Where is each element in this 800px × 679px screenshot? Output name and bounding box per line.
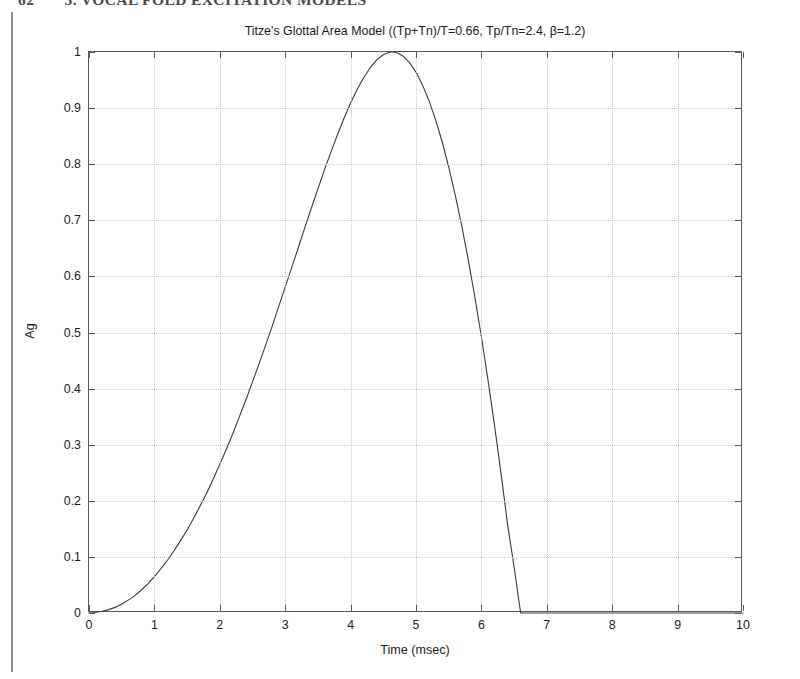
x-axis-tick — [481, 605, 482, 611]
gridline-horizontal — [89, 276, 741, 277]
gridline-horizontal — [89, 164, 741, 165]
y-axis-title: Ag — [23, 323, 37, 338]
gridline-horizontal — [89, 108, 741, 109]
chart-title: Titze's Glottal Area Model ((Tp+Tn)/T=0.… — [88, 24, 742, 38]
y-axis-tick-label: 1 — [74, 45, 81, 59]
x-axis-tick — [220, 52, 221, 58]
x-axis-tick — [481, 52, 482, 58]
x-axis-tick — [416, 52, 417, 58]
x-axis-tick-label: 9 — [674, 618, 681, 632]
gridline-horizontal — [89, 389, 741, 390]
x-axis-tick — [285, 52, 286, 58]
gridline-vertical — [285, 52, 286, 611]
y-axis-tick-label: 0.9 — [64, 101, 81, 115]
x-axis-tick — [612, 605, 613, 611]
x-axis-tick — [743, 605, 744, 611]
gridline-vertical — [481, 52, 482, 611]
gridline-horizontal — [89, 501, 741, 502]
x-axis-tick — [89, 605, 90, 611]
plot-axes: 00.10.20.30.40.50.60.70.80.9101234567891… — [88, 51, 742, 612]
y-axis-tick — [735, 613, 741, 614]
y-axis-tick — [735, 220, 741, 221]
y-axis-tick — [735, 557, 741, 558]
x-axis-tick-label: 0 — [86, 618, 93, 632]
y-axis-tick — [89, 501, 95, 502]
x-axis-tick — [547, 52, 548, 58]
y-axis-tick — [735, 108, 741, 109]
y-axis-tick — [89, 613, 95, 614]
y-axis-tick — [735, 333, 741, 334]
y-axis-tick-label: 0.1 — [64, 550, 81, 564]
gridline-horizontal — [89, 220, 741, 221]
figure-glottal-area-plot: Titze's Glottal Area Model ((Tp+Tn)/T=0.… — [0, 0, 800, 679]
y-axis-tick — [735, 445, 741, 446]
y-axis-tick — [89, 276, 95, 277]
y-axis-tick — [735, 276, 741, 277]
gridline-vertical — [220, 52, 221, 611]
y-axis-tick — [735, 501, 741, 502]
x-axis-tick-label: 8 — [609, 618, 616, 632]
x-axis-tick — [351, 52, 352, 58]
x-axis-title: Time (msec) — [88, 643, 742, 657]
y-axis-tick-label: 0.4 — [64, 382, 81, 396]
y-axis-tick — [89, 333, 95, 334]
y-axis-tick — [89, 220, 95, 221]
gridline-vertical — [416, 52, 417, 611]
gridline-vertical — [154, 52, 155, 611]
y-axis-tick — [89, 445, 95, 446]
x-axis-tick — [89, 52, 90, 58]
x-axis-tick-label: 1 — [151, 618, 158, 632]
y-axis-tick-label: 0.7 — [64, 213, 81, 227]
x-axis-tick — [351, 605, 352, 611]
y-axis-tick — [735, 389, 741, 390]
y-axis-tick — [735, 164, 741, 165]
y-axis-tick — [89, 389, 95, 390]
x-axis-tick — [416, 605, 417, 611]
x-axis-tick — [678, 605, 679, 611]
y-axis-tick — [89, 108, 95, 109]
y-axis-tick — [89, 164, 95, 165]
gridline-vertical — [547, 52, 548, 611]
x-axis-tick-label: 4 — [347, 618, 354, 632]
x-axis-tick — [547, 605, 548, 611]
x-axis-tick-label: 6 — [478, 618, 485, 632]
gridline-vertical — [351, 52, 352, 611]
y-axis-tick-label: 0.6 — [64, 269, 81, 283]
x-axis-tick-label: 5 — [413, 618, 420, 632]
x-axis-tick — [220, 605, 221, 611]
x-axis-tick — [154, 605, 155, 611]
gridline-horizontal — [89, 557, 741, 558]
scanned-page: 62 3. VOCAL FOLD EXCITATION MODELS Titze… — [0, 0, 800, 679]
gridline-vertical — [678, 52, 679, 611]
x-axis-tick — [678, 52, 679, 58]
gridline-horizontal — [89, 333, 741, 334]
x-axis-tick — [285, 605, 286, 611]
y-axis-tick-label: 0.3 — [64, 438, 81, 452]
gridline-vertical — [612, 52, 613, 611]
y-axis-tick-label: 0 — [74, 606, 81, 620]
x-axis-tick-label: 10 — [736, 618, 750, 632]
x-axis-tick — [743, 52, 744, 58]
y-axis-tick-label: 0.8 — [64, 157, 81, 171]
y-axis-tick — [89, 557, 95, 558]
x-axis-tick — [612, 52, 613, 58]
x-axis-tick — [154, 52, 155, 58]
x-axis-tick-label: 2 — [216, 618, 223, 632]
y-axis-tick-label: 0.5 — [64, 326, 81, 340]
gridline-horizontal — [89, 445, 741, 446]
x-axis-tick-label: 3 — [282, 618, 289, 632]
x-axis-tick-label: 7 — [543, 618, 550, 632]
y-axis-tick-label: 0.2 — [64, 494, 81, 508]
y-axis-tick — [735, 52, 741, 53]
